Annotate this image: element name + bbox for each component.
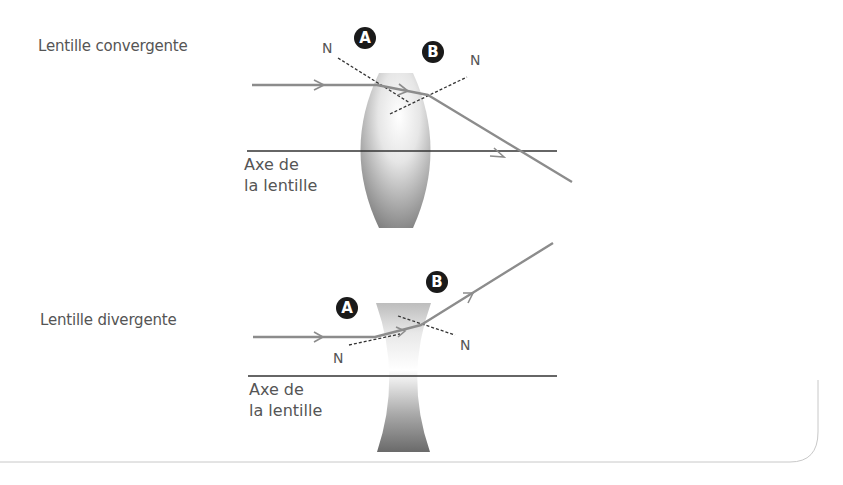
normal-label-a: N: [333, 350, 343, 366]
diverging-lens-title: Lentille divergente: [40, 311, 176, 329]
normal-label-b: N: [470, 52, 480, 68]
ray-arrow-icon: [490, 148, 504, 157]
point-a-marker: A: [336, 297, 358, 319]
converging-lens-group: [247, 58, 572, 228]
converging-lens-title: Lentille convergente: [38, 37, 188, 55]
diagram-canvas: [0, 0, 843, 485]
point-b-marker: B: [422, 41, 444, 63]
normal-label-a: N: [322, 40, 332, 56]
diverging-lens: [376, 303, 431, 452]
lens-refraction-diagram: Lentille convergente Axe de la lentille …: [0, 0, 843, 485]
normal-label-b: N: [460, 337, 470, 353]
point-a-marker: A: [354, 27, 376, 49]
diverging-axis-label: Axe de la lentille: [249, 379, 322, 421]
point-b-marker: B: [426, 271, 448, 293]
converging-axis-label: Axe de la lentille: [244, 154, 317, 196]
